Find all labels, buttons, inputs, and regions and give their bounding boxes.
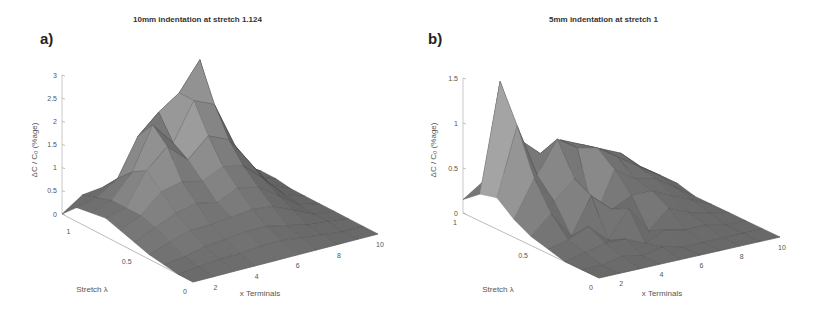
z-axis-label: ΔC / C₀ (%age) [30, 122, 39, 177]
z-tick-label: 0.5 [448, 165, 458, 172]
x-tick-label: 2 [619, 280, 623, 287]
x-tick-label: 6 [296, 262, 300, 269]
x-tick-label: 4 [659, 271, 663, 278]
z-tick-label: 1.5 [448, 75, 458, 82]
z-tick-label: 0 [53, 211, 57, 218]
z-tick-label: 3 [53, 72, 57, 79]
z-axis-label: ΔC / C₀ (%age) [429, 122, 438, 177]
surface-plot-a: 00.511.522.5300.51246810 [47, 60, 384, 295]
x-tick-label: 8 [740, 253, 744, 260]
y-tick-label: 0 [589, 284, 593, 291]
x-tick-label: 10 [376, 241, 384, 248]
y-tick-label: 1 [453, 219, 457, 226]
y-tick-label: 1 [66, 228, 70, 235]
surface-plots: 00.511.522.5300.51246810 00.511.500.5124… [0, 0, 820, 317]
x-tick-label: 10 [778, 244, 786, 251]
z-tick-label: 0 [454, 210, 458, 217]
z-tick-label: 0.5 [47, 187, 57, 194]
z-tick-label: 1 [454, 120, 458, 127]
y-tick-label: 0.5 [518, 252, 528, 259]
x-axis-label: x Terminals [642, 289, 682, 298]
x-tick-label: 2 [214, 284, 218, 291]
x-tick-label: 6 [700, 262, 704, 269]
y-tick-label: 0.5 [122, 258, 132, 265]
x-tick-label: 8 [337, 252, 341, 259]
y-tick-label: 0 [183, 288, 187, 295]
x-tick-label: 4 [255, 273, 259, 280]
y-axis-label: Stretch λ [482, 285, 514, 294]
z-tick-label: 2 [53, 118, 57, 125]
z-tick-label: 1 [53, 164, 57, 171]
z-tick-label: 1.5 [47, 141, 57, 148]
y-axis-label: Stretch λ [76, 285, 108, 294]
x-axis-label: x Terminals [240, 289, 280, 298]
surface-plot-b: 00.511.500.51246810 [448, 75, 786, 292]
z-tick-label: 2.5 [47, 95, 57, 102]
